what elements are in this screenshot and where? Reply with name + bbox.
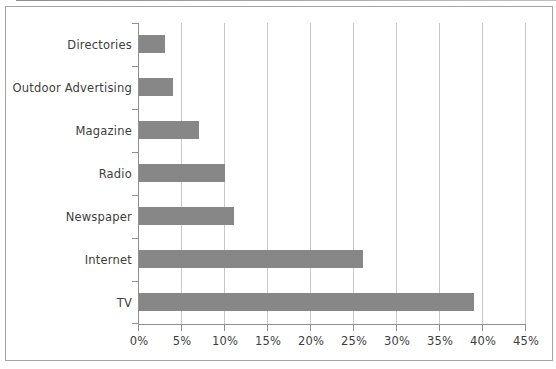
category-label-tv: TV bbox=[6, 281, 132, 324]
gridline-30% bbox=[396, 23, 397, 324]
y-axis-tick bbox=[132, 66, 138, 67]
category-label-newspaper: Newspaper bbox=[6, 195, 132, 238]
x-axis-tick bbox=[310, 324, 311, 331]
gridline-45% bbox=[525, 23, 526, 324]
category-label-radio: Radio bbox=[6, 152, 132, 195]
category-axis-labels: DirectoriesOutdoor AdvertisingMagazineRa… bbox=[6, 23, 132, 324]
y-axis-tick bbox=[132, 238, 138, 239]
y-axis-tick bbox=[132, 281, 138, 282]
gridline-25% bbox=[353, 23, 354, 324]
x-axis-tick bbox=[138, 324, 139, 331]
x-axis-tick bbox=[181, 324, 182, 331]
bar-radio bbox=[139, 164, 225, 182]
scan-artifact-line bbox=[16, 0, 556, 1]
x-axis-tick-label: 35% bbox=[410, 334, 470, 348]
gridline-20% bbox=[310, 23, 311, 324]
category-label-directories: Directories bbox=[6, 23, 132, 66]
x-axis-tick-label: 30% bbox=[367, 334, 427, 348]
x-axis-tick bbox=[439, 324, 440, 331]
bar-internet bbox=[139, 250, 363, 268]
x-axis-tick bbox=[353, 324, 354, 331]
category-label-internet: Internet bbox=[6, 238, 132, 281]
x-axis-tick bbox=[525, 324, 526, 331]
bar-tv bbox=[139, 293, 474, 311]
y-axis-tick bbox=[132, 323, 138, 324]
x-axis-tick-label: 45% bbox=[496, 334, 556, 348]
bar-magazine bbox=[139, 121, 199, 139]
page: { "chart_data": { "type": "bar", "orient… bbox=[0, 0, 556, 369]
y-axis-tick bbox=[132, 109, 138, 110]
x-axis-tick bbox=[482, 324, 483, 331]
x-axis-tick-label: 40% bbox=[453, 334, 513, 348]
x-axis-tick-label: 10% bbox=[195, 334, 255, 348]
gridline-15% bbox=[267, 23, 268, 324]
bar-directories bbox=[139, 35, 165, 53]
bar-outdoor-advertising bbox=[139, 78, 173, 96]
plot-area bbox=[138, 23, 526, 325]
gridline-40% bbox=[482, 23, 483, 324]
x-axis-tick bbox=[224, 324, 225, 331]
x-axis-tick-label: 25% bbox=[324, 334, 384, 348]
bar-newspaper bbox=[139, 207, 234, 225]
x-axis-tick-label: 20% bbox=[281, 334, 341, 348]
category-label-magazine: Magazine bbox=[6, 109, 132, 152]
x-axis-tick-label: 15% bbox=[238, 334, 298, 348]
x-axis-tick bbox=[396, 324, 397, 331]
x-axis-tick-label: 0% bbox=[109, 334, 169, 348]
x-axis-tick bbox=[267, 324, 268, 331]
gridline-35% bbox=[439, 23, 440, 324]
y-axis-tick bbox=[132, 23, 138, 24]
category-label-outdoor-advertising: Outdoor Advertising bbox=[6, 66, 132, 109]
y-axis-tick bbox=[132, 152, 138, 153]
y-axis-tick bbox=[132, 195, 138, 196]
x-axis-tick-label: 5% bbox=[152, 334, 212, 348]
bar-chart-frame: DirectoriesOutdoor AdvertisingMagazineRa… bbox=[5, 6, 553, 361]
